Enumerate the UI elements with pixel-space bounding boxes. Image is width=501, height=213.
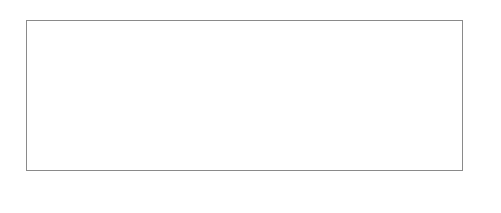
repeat-brace-icon (0, 0, 160, 16)
chart-grid (27, 21, 462, 170)
